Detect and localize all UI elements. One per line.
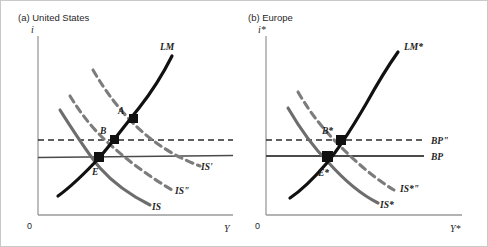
panel-a-title: (a) United States [18,12,90,23]
panel-b-title: (b) Europe [248,12,293,23]
panel-a-point-b-marker [110,135,119,144]
figure-background [0,0,488,247]
panel-a-point-a-marker [129,114,138,123]
panel-b-is-double-prime-label: IS*" [399,184,419,194]
panel-b-point-b-label: B* [321,126,333,136]
panel-b-x-axis-label: Y* [450,223,461,234]
isml-bp-diagram: (a) United States i Y 0 LM IS IS" IS' A … [0,0,488,247]
panel-b-point-e-label: E* [317,168,329,178]
panel-a-point-a-label: A [117,106,124,116]
panel-a-point-e-label: E [91,167,98,177]
panel-b-point-e-marker [322,151,333,162]
panel-b-origin-label: 0 [255,221,260,231]
panel-b-point-b-marker [336,135,346,145]
panel-a-is-label: IS [151,202,161,212]
panel-a-lm-label: LM [159,42,175,52]
panel-b-y-axis-label: i* [258,24,266,35]
panel-a-is-double-prime-label: IS" [174,186,189,196]
panel-a-is-prime-label: IS' [200,162,213,172]
panel-b-bp-double-prime-label: BP" [430,136,448,146]
diagram-canvas: (a) United States i Y 0 LM IS IS" IS' A … [0,0,488,247]
panel-a-y-axis-label: i [31,24,34,35]
panel-b-bp-label: BP [430,152,443,162]
panel-b-lm-label: LM* [403,42,423,52]
panel-a-point-e-marker [94,152,104,162]
panel-a-point-b-label: B [99,126,106,136]
panel-b-is-label: IS* [379,200,394,210]
panel-a-origin-label: 0 [27,221,32,231]
